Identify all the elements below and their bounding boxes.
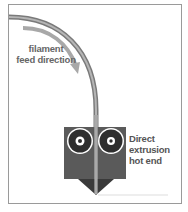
feed-direction-label: filament feed direction (16, 43, 76, 65)
gear-left-icon (67, 128, 93, 154)
filament-diagram (0, 0, 188, 212)
gear-right-icon (98, 128, 124, 154)
hotend-label-line2: extrusion (129, 144, 170, 155)
hotend-label: Direct extrusion hot end (129, 133, 170, 166)
feed-label-line1: filament (16, 43, 76, 54)
hotend-label-line3: hot end (129, 155, 170, 166)
feed-label-line2: feed direction (16, 54, 76, 65)
hotend-label-line1: Direct (129, 133, 170, 144)
